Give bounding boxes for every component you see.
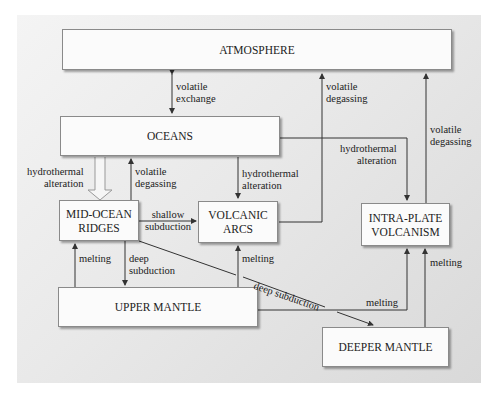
edge-label-ridges-melting: melting: [79, 253, 111, 265]
edge-label-intra-melting-upper: melting: [366, 297, 398, 309]
node-intra-plate-volcanism: INTRA-PLATE VOLCANISM: [361, 203, 450, 246]
edge-label-arcs-degassing: volatile degassing: [326, 81, 367, 105]
edge-label-ridges-degassing: volatile degassing: [135, 166, 176, 190]
edge-label-line: volatile: [326, 81, 367, 93]
node-label: VOLCANISM: [371, 225, 439, 239]
edge-label-line: degassing: [326, 93, 367, 105]
edge-label-line: hydrothermal: [27, 166, 84, 178]
edge-label-line: degassing: [430, 136, 471, 148]
edge-label-line: alteration: [340, 155, 397, 167]
edge-label-shallow-subduction: shallow subduction: [145, 209, 191, 233]
node-label: DEEPER MANTLE: [338, 340, 432, 354]
edge-label-line: subduction: [129, 265, 175, 277]
edge-label-line: volatile: [135, 166, 176, 178]
node-label: UPPER MANTLE: [115, 300, 202, 314]
node-label: RIDGES: [78, 221, 120, 235]
node-label: OCEANS: [147, 129, 193, 143]
edge-label-line: alteration: [27, 178, 84, 190]
node-label: VOLCANIC: [208, 208, 267, 222]
edge-label-line: hydrothermal: [242, 168, 299, 180]
node-atmosphere: ATMOSPHERE: [62, 29, 452, 70]
edge-label-line: volatile: [176, 81, 216, 93]
edge-label-line: exchange: [176, 93, 216, 105]
edge-label-line: degassing: [135, 178, 176, 190]
node-deeper-mantle: DEEPER MANTLE: [322, 327, 449, 367]
edge-label-line: deep: [129, 253, 175, 265]
node-oceans: OCEANS: [60, 116, 280, 156]
node-label: MID-OCEAN: [66, 207, 132, 221]
node-label: ATMOSPHERE: [219, 43, 294, 57]
edge-label-line: hydrothermal: [340, 143, 397, 155]
edge-label-intra-degassing: volatile degassing: [430, 124, 471, 148]
edge-label-intra-melting-deeper: melting: [430, 257, 462, 269]
node-mid-ocean-ridges: MID-OCEAN RIDGES: [59, 200, 139, 241]
node-upper-mantle: UPPER MANTLE: [58, 287, 258, 327]
node-volcanic-arcs: VOLCANIC ARCS: [198, 201, 278, 243]
edge-label-line: shallow: [145, 209, 191, 221]
edge-label-deep-subduction-upper: deep subduction: [129, 253, 175, 277]
edge-label-line: alteration: [242, 180, 299, 192]
node-label: INTRA-PLATE: [369, 211, 442, 225]
edge-label-arcs-melting: melting: [242, 253, 274, 265]
edge-label-line: subduction: [145, 221, 191, 233]
edge-label-line: volatile: [430, 124, 471, 136]
edge-label-intra-hydrothermal: hydrothermal alteration: [340, 143, 397, 167]
edge-label-ridges-hydrothermal: hydrothermal alteration: [27, 166, 84, 190]
edge-label-arcs-hydrothermal: hydrothermal alteration: [242, 168, 299, 192]
edge-label-volatile-exchange: volatile exchange: [176, 81, 216, 105]
node-label: ARCS: [223, 222, 253, 236]
